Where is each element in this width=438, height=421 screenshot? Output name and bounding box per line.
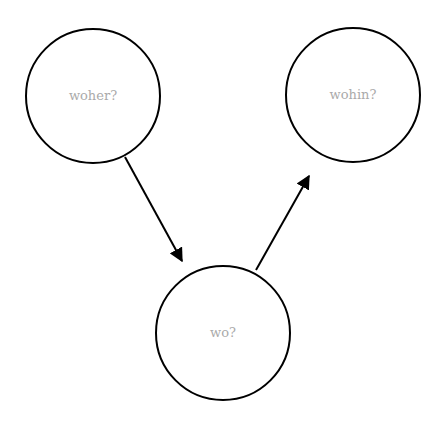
node-woher: woher? bbox=[26, 29, 160, 163]
edge-wo-to-wohin-arrow bbox=[256, 176, 309, 270]
node-wohin: wohin? bbox=[286, 28, 420, 162]
edge-woher-to-wo-arrow bbox=[125, 157, 182, 261]
node-wohin-label: wohin? bbox=[330, 87, 377, 102]
node-woher-label: woher? bbox=[69, 88, 117, 103]
node-wo: wo? bbox=[156, 266, 290, 400]
diagram-canvas: woher? wohin? wo? bbox=[0, 0, 438, 421]
node-wo-label: wo? bbox=[210, 325, 236, 340]
